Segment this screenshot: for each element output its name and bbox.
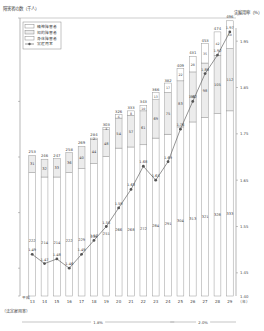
rate-value: 1.49 xyxy=(28,248,37,252)
bar-segment xyxy=(41,177,48,296)
physical-value: 291 xyxy=(165,222,172,226)
bar-segment xyxy=(152,138,159,296)
rate-marker xyxy=(142,165,145,168)
rate-value: 1.52 xyxy=(90,234,98,238)
intellectual-value: 57 xyxy=(129,130,134,134)
x-tick-label: 14 xyxy=(42,299,48,304)
total-value: 496 xyxy=(226,14,234,19)
total-value: 431 xyxy=(189,50,197,55)
x-tick-label: 24 xyxy=(166,299,172,304)
rate-value: 1.49 xyxy=(78,248,87,252)
physical-value: 333 xyxy=(226,212,233,216)
rate-value: 1.68 xyxy=(139,160,148,164)
legend-swatch xyxy=(25,31,34,35)
rate-marker xyxy=(43,262,46,265)
total-value: 284 xyxy=(90,132,98,137)
rate-value: 1.59 xyxy=(115,202,124,206)
legend-swatch xyxy=(25,25,34,29)
bar-segment xyxy=(115,148,122,296)
bar-segment xyxy=(91,164,98,296)
intellectual-value: 54 xyxy=(116,132,121,136)
total-value: 453 xyxy=(201,38,209,43)
intellectual-value: 61 xyxy=(141,126,146,130)
bar-segment xyxy=(128,147,135,296)
mental-value: 10 xyxy=(141,107,145,111)
physical-value: 229 xyxy=(78,238,86,242)
bar-segment xyxy=(189,122,196,296)
right-axis-title: 実雇用率（%） xyxy=(234,9,262,16)
legal-rate-value: 1.8% xyxy=(93,320,103,325)
intellectual-value: 44 xyxy=(92,150,97,154)
mental-value: 13 xyxy=(154,95,158,99)
rate-marker xyxy=(228,31,231,34)
mental-value: 6 xyxy=(118,115,120,119)
x-tick-label: 23 xyxy=(153,299,159,304)
x-suffix: （年） xyxy=(238,299,250,304)
total-value: 333 xyxy=(127,105,135,110)
physical-value: 284 xyxy=(152,224,160,228)
left-axis-title: 障害者の数（千人） xyxy=(3,5,39,12)
rate-marker xyxy=(167,160,170,163)
right-tick-label: 1.95 xyxy=(240,39,249,44)
right-tick-label: 1.75 xyxy=(240,131,249,136)
total-value: 382 xyxy=(164,78,172,83)
rate-marker xyxy=(191,100,194,103)
rate-value: 1.88 xyxy=(201,68,210,72)
rate-marker xyxy=(80,253,83,256)
x-tick-label: 15 xyxy=(54,299,60,304)
total-value: 253 xyxy=(29,149,37,154)
bar-segment xyxy=(177,127,184,296)
x-tick-label: 29 xyxy=(227,299,233,304)
bar-segment xyxy=(66,173,73,296)
x-tick-label: 22 xyxy=(141,299,147,304)
intellectual-value: 105 xyxy=(214,83,221,87)
physical-value: 214 xyxy=(41,241,49,245)
total-value: 303 xyxy=(103,122,111,127)
intellectual-value: 31 xyxy=(30,162,35,166)
mental-value: 4 xyxy=(105,127,107,131)
rate-marker xyxy=(117,207,120,210)
right-tick-label: 1.45 xyxy=(240,270,249,275)
rate-marker xyxy=(55,258,58,261)
bar-segment xyxy=(53,177,60,296)
physical-value: 251 xyxy=(103,232,110,236)
rate-value: 1.69 xyxy=(164,156,173,160)
rate-marker xyxy=(179,128,182,131)
rate-marker xyxy=(68,267,71,270)
legend-label: 実雇用率 xyxy=(37,41,53,46)
rate-value: 1.55 xyxy=(102,221,110,225)
physical-value: 222 xyxy=(29,239,36,243)
legal-rate-label: （法定雇用率） xyxy=(2,308,30,314)
total-value: 366 xyxy=(152,87,160,92)
x-prefix: 平成 xyxy=(22,295,30,300)
rate-marker xyxy=(154,179,157,182)
mental-value: 8 xyxy=(130,112,132,116)
mental-value: 2 xyxy=(93,137,95,141)
total-value: 409 xyxy=(177,63,185,68)
bar-segment xyxy=(214,114,221,296)
physical-value: 214 xyxy=(53,241,61,245)
legend-marker xyxy=(28,43,30,45)
physical-value: 272 xyxy=(140,227,147,231)
intellectual-value: 32 xyxy=(42,167,47,171)
mental-value: 42 xyxy=(215,42,219,46)
x-tick-label: 18 xyxy=(91,299,97,304)
right-tick-label: 1.40 xyxy=(240,294,249,299)
rate-value: 1.46 xyxy=(65,262,74,266)
mental-value: 22 xyxy=(178,73,182,77)
x-tick-label: 17 xyxy=(79,299,85,304)
chart-container: 障害者の数（千人）実雇用率（%）1.451.551.651.751.851.95… xyxy=(0,0,264,331)
rate-value: 1.76 xyxy=(176,123,185,127)
total-value: 247 xyxy=(53,153,61,158)
intellectual-value: 98 xyxy=(203,89,208,93)
right-tick-label: 1.55 xyxy=(240,224,249,229)
total-value: 343 xyxy=(140,99,148,104)
physical-value: 304 xyxy=(177,219,185,223)
x-tick-label: 20 xyxy=(116,299,122,304)
legend-swatch xyxy=(25,37,34,41)
rate-marker xyxy=(130,188,133,191)
rate-value: 1.65 xyxy=(152,174,160,178)
bar-segment xyxy=(226,111,233,296)
bar-segment xyxy=(202,118,209,296)
right-tick-label: 1.85 xyxy=(240,85,249,90)
